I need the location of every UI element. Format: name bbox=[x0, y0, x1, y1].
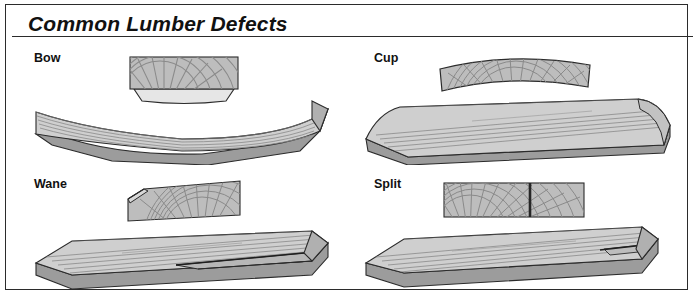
figure-frame: Common Lumber Defects Bow bbox=[5, 4, 688, 290]
title-divider bbox=[12, 36, 693, 37]
cup-end-block-face bbox=[440, 59, 590, 91]
figure-title: Common Lumber Defects bbox=[28, 12, 288, 36]
bow-illustration bbox=[12, 39, 352, 165]
defect-panel-cup: Cup bbox=[352, 39, 693, 165]
lumber-defects-figure: Common Lumber Defects Bow bbox=[0, 0, 693, 295]
bow-end-block-bottom bbox=[134, 89, 234, 104]
defect-panel-split: Split bbox=[352, 165, 693, 295]
wane-illustration bbox=[12, 165, 352, 295]
cup-illustration bbox=[352, 39, 693, 165]
defect-panel-bow: Bow bbox=[12, 39, 352, 165]
defect-panel-wane: Wane bbox=[12, 165, 352, 295]
split-illustration bbox=[352, 165, 693, 295]
bow-end-block-face bbox=[130, 57, 238, 89]
